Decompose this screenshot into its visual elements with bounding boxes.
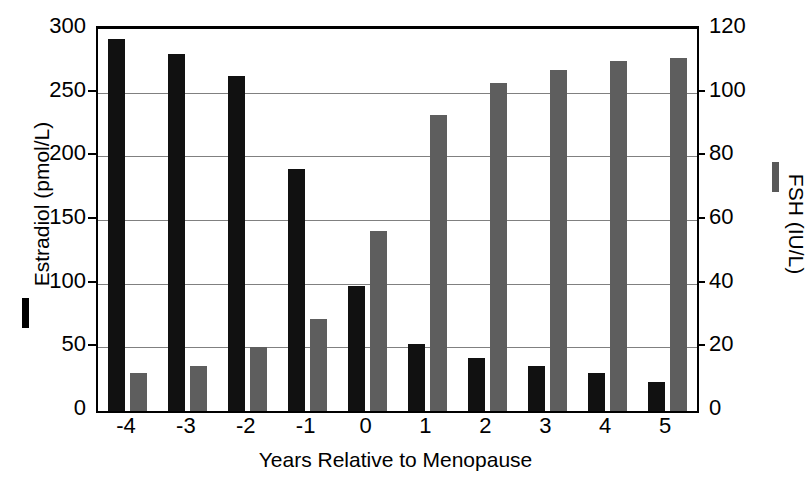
bar-estradiol xyxy=(648,382,665,411)
bar-estradiol xyxy=(108,39,125,411)
bar-estradiol xyxy=(528,366,545,411)
y-axis-left-tick-label: 300 xyxy=(30,15,86,37)
x-axis-title: Years Relative to Menopause xyxy=(96,448,695,472)
bar-fsh xyxy=(550,70,567,411)
bar-fsh xyxy=(190,366,207,411)
y-axis-left-tick-label: 250 xyxy=(30,79,86,101)
y-axis-left-tick-mark xyxy=(88,90,96,92)
x-axis-tick-label: 2 xyxy=(455,414,515,438)
y-axis-left-tick-label: 50 xyxy=(30,333,86,355)
y-axis-right-tick-label: 80 xyxy=(709,142,769,164)
bar-estradiol xyxy=(168,54,185,411)
bar-fsh xyxy=(670,58,687,411)
bars-layer xyxy=(98,29,697,411)
bar-fsh xyxy=(130,373,147,411)
legend-swatch-fsh xyxy=(772,162,779,192)
bar-fsh xyxy=(490,83,507,411)
bar-estradiol xyxy=(348,286,365,411)
bar-fsh xyxy=(430,115,447,411)
x-axis-tick-label: -1 xyxy=(276,414,336,438)
y-axis-left-tick-label: 200 xyxy=(30,142,86,164)
x-axis-tick-label: 5 xyxy=(635,414,695,438)
figure-caption-sliver xyxy=(30,488,774,498)
bar-fsh xyxy=(370,231,387,411)
y-axis-right-title: FSH (IU/L) xyxy=(784,114,808,334)
plot-area xyxy=(96,26,699,413)
y-axis-left-tick-label: 150 xyxy=(30,206,86,228)
x-axis-tick-label: 4 xyxy=(575,414,635,438)
y-axis-left-tick-mark xyxy=(88,344,96,346)
x-axis-tick-label: 0 xyxy=(336,414,396,438)
bar-fsh xyxy=(310,319,327,411)
y-axis-right-tick-label: 60 xyxy=(709,206,769,228)
y-axis-left-tick-label: 100 xyxy=(30,270,86,292)
x-axis-tick-label: -2 xyxy=(216,414,276,438)
y-axis-left-tick-mark xyxy=(88,153,96,155)
y-axis-right-tick-label: 20 xyxy=(709,333,769,355)
bar-estradiol xyxy=(228,76,245,411)
y-axis-left-tick-mark xyxy=(88,217,96,219)
bar-estradiol xyxy=(408,344,425,411)
y-axis-right-tick-label: 40 xyxy=(709,270,769,292)
bar-estradiol xyxy=(288,169,305,411)
bar-estradiol xyxy=(468,358,485,411)
y-axis-right-tick-label: 120 xyxy=(709,15,769,37)
x-axis-tick-label: 3 xyxy=(515,414,575,438)
y-axis-right-tick-label: 0 xyxy=(709,397,769,419)
legend-swatch-estradiol xyxy=(22,298,29,328)
x-axis-tick-label: 1 xyxy=(395,414,455,438)
bar-estradiol xyxy=(588,373,605,411)
bar-fsh xyxy=(610,61,627,411)
y-axis-left-tick-label: 0 xyxy=(30,397,86,419)
bar-fsh xyxy=(250,347,267,411)
y-axis-left-tick-mark xyxy=(88,281,96,283)
x-axis-tick-label: -3 xyxy=(156,414,216,438)
y-axis-right-tick-label: 100 xyxy=(709,79,769,101)
x-axis-tick-label: -4 xyxy=(96,414,156,438)
